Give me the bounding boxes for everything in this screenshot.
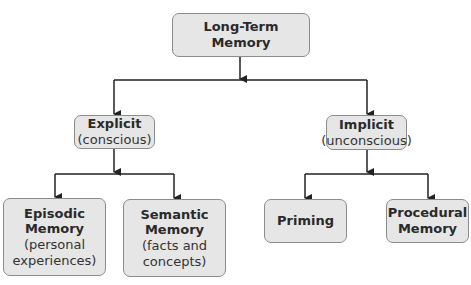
node-subtitle: concepts) — [143, 254, 207, 270]
node-procedural-memory: Procedural Memory — [386, 199, 469, 243]
node-title: Semantic — [140, 207, 208, 223]
node-implicit: Implicit (unconscious) — [326, 115, 407, 150]
node-title: Priming — [277, 213, 334, 229]
node-title: Memory — [145, 222, 204, 238]
node-subtitle: experiences) — [13, 253, 97, 269]
node-title: Explicit — [88, 116, 142, 132]
node-subtitle: (conscious) — [78, 132, 152, 148]
node-priming: Priming — [264, 199, 347, 243]
node-semantic-memory: Semantic Memory (facts and concepts) — [123, 199, 226, 277]
node-explicit: Explicit (conscious) — [74, 115, 155, 149]
node-title: Memory — [25, 221, 84, 237]
node-title: Implicit — [339, 117, 394, 133]
node-long-term-memory: Long-Term Memory — [172, 13, 310, 57]
node-title: Long-Term Memory — [173, 19, 309, 50]
node-title: Memory — [398, 221, 457, 237]
node-title: Procedural — [388, 205, 468, 221]
node-title: Episodic — [24, 206, 85, 222]
node-subtitle: (unconscious) — [321, 133, 411, 149]
node-episodic-memory: Episodic Memory (personal experiences) — [3, 198, 106, 276]
node-subtitle: (facts and — [142, 238, 207, 254]
node-subtitle: (personal — [24, 237, 85, 253]
